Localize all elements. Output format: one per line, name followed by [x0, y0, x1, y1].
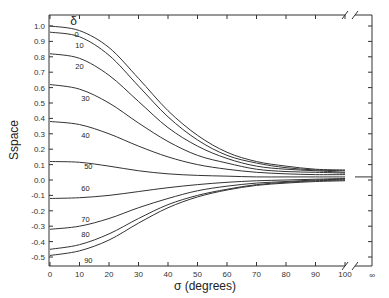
x-tick-label: 90 [311, 270, 320, 279]
curve-label-10: 10 [75, 41, 83, 50]
x-tick-label: 10 [75, 270, 84, 279]
y-tick-label: -0.2 [31, 207, 45, 216]
y-tick-label: 1.0 [34, 22, 46, 31]
curve-label-50: 50 [84, 162, 92, 171]
curve-delta-20 [50, 54, 345, 173]
x-tick-label-infinity: ∞ [369, 271, 375, 280]
curve-delta-70 [50, 179, 345, 229]
y-tick-label: -0.4 [31, 238, 45, 247]
curve-label-90: 90 [84, 256, 92, 265]
chart-figure: 0102030405060708090100∞1.00.90.80.70.60.… [0, 0, 389, 298]
y-tick-label: 0.8 [34, 53, 46, 62]
y-tick-label: 0.4 [34, 114, 46, 123]
curve-label-0: 0 [74, 30, 78, 39]
y-tick-label: -0.5 [31, 253, 45, 262]
x-tick-label: 100 [338, 270, 352, 279]
x-axis-label: σ (degrees) [174, 279, 236, 293]
y-tick-label: 0.9 [34, 37, 46, 46]
curve-label-70: 70 [81, 215, 89, 224]
curve-label-30: 30 [81, 94, 89, 103]
curve-delta-10 [50, 32, 345, 171]
x-tick-label: 20 [105, 270, 114, 279]
x-tick-label: 40 [164, 270, 173, 279]
y-tick-label: 0.0 [34, 176, 46, 185]
y-tick-label: 0.1 [34, 161, 46, 170]
x-tick-label: 30 [134, 270, 143, 279]
curve-label-20: 20 [75, 62, 83, 71]
y-axis-label: Sspace [7, 120, 21, 160]
y-tick-label: 0.6 [34, 84, 46, 93]
y-tick-label: 0.2 [34, 145, 46, 154]
line-chart: 0102030405060708090100∞1.00.90.80.70.60.… [0, 0, 389, 298]
y-tick-label: -0.3 [31, 222, 45, 231]
curve-label-80: 80 [81, 230, 89, 239]
curve-delta-0 [50, 26, 345, 170]
y-tick-label: 0.3 [34, 130, 46, 139]
curve-delta-40 [50, 121, 345, 174]
x-tick-label: 70 [252, 270, 261, 279]
y-tick-label: 0.7 [34, 68, 46, 77]
x-tick-label: 80 [282, 270, 291, 279]
curve-label-40: 40 [81, 131, 89, 140]
x-tick-label: 0 [48, 270, 53, 279]
y-tick-label: 0.5 [34, 99, 46, 108]
y-tick-label: -0.1 [31, 191, 45, 200]
curve-label-60: 60 [81, 184, 89, 193]
x-tick-label: 50 [193, 270, 202, 279]
legend-header-delta: δ [70, 14, 77, 28]
x-tick-label: 60 [223, 270, 232, 279]
curve-delta-90 [50, 181, 345, 256]
